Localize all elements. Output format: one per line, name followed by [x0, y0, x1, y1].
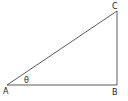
vertex-label-c: C [112, 2, 118, 11]
side-ac-hypotenuse [7, 11, 117, 85]
vertex-label-a: A [3, 87, 9, 96]
triangle-diagram: A B C θ [0, 0, 128, 101]
angle-label-theta: θ [24, 76, 29, 85]
vertex-label-b: B [112, 88, 118, 97]
